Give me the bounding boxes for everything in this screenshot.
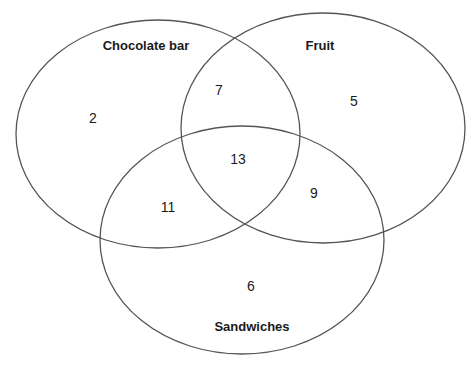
- set-label-chocolate-bar: Chocolate bar: [103, 38, 190, 53]
- region-chocolate-fruit: 7: [215, 82, 223, 98]
- chocolate-bar-set-ellipse: [16, 20, 300, 248]
- set-label-sandwiches: Sandwiches: [214, 319, 289, 334]
- set-label-fruit: Fruit: [306, 38, 335, 53]
- region-sandwiches-only: 6: [247, 278, 255, 294]
- region-fruit-sandwiches: 9: [310, 185, 318, 201]
- venn-diagram: [0, 0, 475, 365]
- region-chocolate-sandwiches: 11: [161, 199, 176, 215]
- region-chocolate-only: 2: [89, 110, 97, 126]
- region-fruit-only: 5: [350, 93, 358, 109]
- region-all-three: 13: [230, 151, 246, 167]
